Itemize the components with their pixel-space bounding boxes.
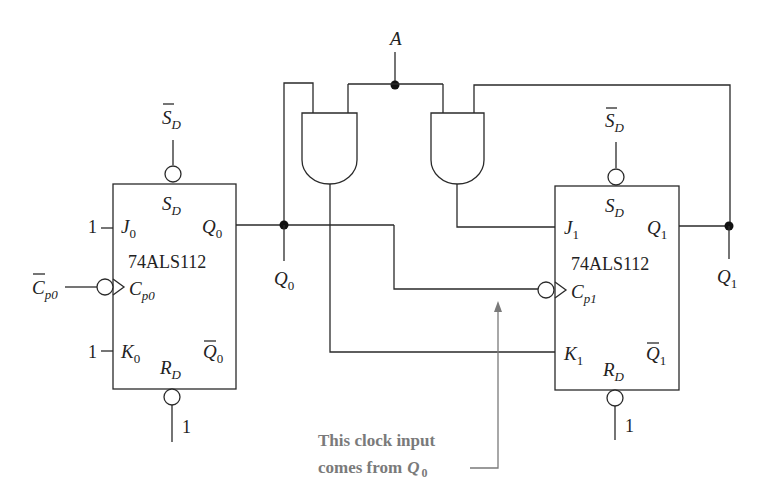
- chip-name-1: 74ALS112: [571, 254, 649, 274]
- q0-output-net: Q0: [236, 221, 538, 294]
- and-gate-1: [284, 83, 555, 352]
- j0-tie-value: 1: [88, 217, 97, 237]
- chip-name-0: 74ALS112: [128, 252, 206, 272]
- clock-bubble-1: [538, 282, 554, 298]
- q1-output-net: Q1: [679, 222, 737, 292]
- flipflop-1: SD SD J1 Q1 74ALS112 Cp1 K1 Q1 RD 1: [538, 108, 679, 440]
- annotation: This clock input comes fromQ0: [318, 301, 502, 480]
- input-a-label: A: [388, 28, 402, 49]
- reset-tie-value-1: 1: [625, 416, 634, 436]
- q1-output-label: Q1: [717, 266, 737, 291]
- input-a: A: [348, 28, 443, 113]
- annotation-line-1: This clock input: [318, 431, 435, 450]
- reset-tie-value-0: 1: [182, 417, 191, 437]
- reset-bubble-0: [164, 389, 180, 405]
- q0-output-label: Q0: [274, 268, 294, 293]
- set-input-label-0: SD: [162, 107, 182, 132]
- reset-bubble-1: [607, 390, 623, 406]
- set-bubble-0: [165, 166, 181, 182]
- clock-input-label-0: Cp0: [32, 277, 58, 302]
- annotation-line-2: comes fromQ0: [318, 458, 427, 480]
- clock-bubble-0: [97, 279, 113, 295]
- junction-dot-a: [391, 81, 400, 90]
- circuit-diagram: SD SD 1 J0 Q0 74ALS112 Cp0 Cp0 1 K0 Q0 R…: [0, 0, 766, 498]
- annotation-arrowhead-icon: [494, 301, 502, 312]
- k0-tie-value: 1: [88, 342, 97, 362]
- set-input-label-1: SD: [605, 110, 625, 135]
- flipflop-0: SD SD 1 J0 Q0 74ALS112 Cp0 Cp0 1 K0 Q0 R…: [32, 104, 236, 442]
- set-bubble-1: [608, 169, 624, 185]
